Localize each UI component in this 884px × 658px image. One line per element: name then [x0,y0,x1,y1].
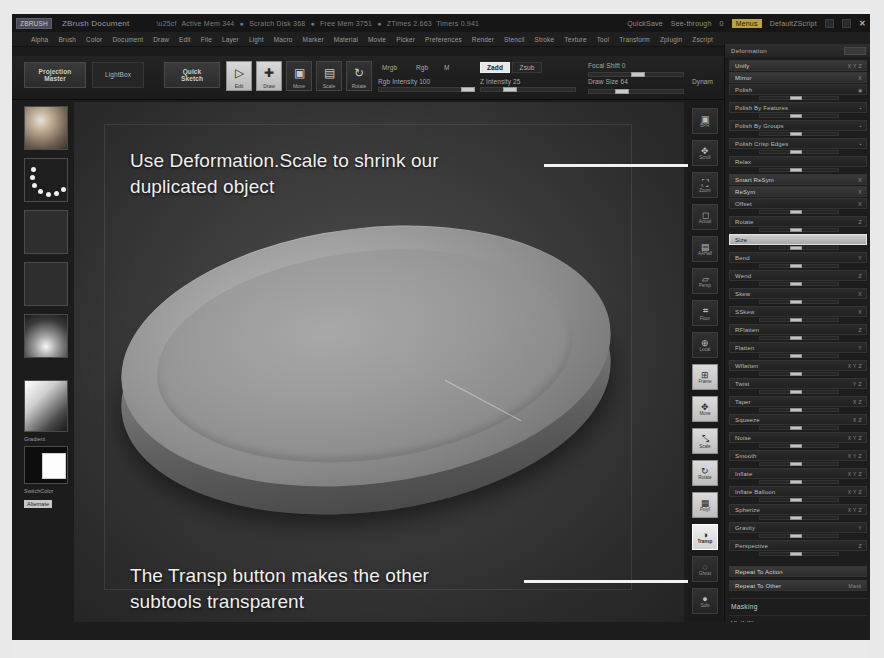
ghost-button[interactable]: ◌Ghost [692,556,718,582]
deformation-row-axis[interactable]: X Y Z [848,471,862,477]
deformation-slider-wend[interactable] [759,282,839,286]
deformation-row-sskew[interactable]: SSkewX [729,306,867,317]
slider-knob[interactable] [790,264,802,268]
deformation-slider-taper[interactable] [759,408,839,412]
lightbox-button[interactable]: LightBox [92,62,144,88]
deformation-slider-gravity[interactable] [759,534,839,538]
deformation-row-axis[interactable]: X Y Z [848,435,862,441]
current-texture-swatch[interactable] [24,262,68,306]
zadd-button[interactable]: Zadd [480,62,510,73]
deformation-row-axis[interactable]: Y [858,525,862,531]
deformation-slider-skew[interactable] [759,300,839,304]
deformation-row-polish[interactable]: Polish◉ [729,84,867,95]
menu-item-preferences[interactable]: Preferences [420,36,467,43]
persp-button[interactable]: ▱Persp [692,268,718,294]
mrgb-button[interactable]: Mrgb [382,64,397,71]
current-alpha-swatch[interactable] [24,210,68,254]
dynamic-button[interactable]: Dynam [692,78,713,85]
menu-item-tool[interactable]: Tool [592,36,615,43]
deformation-slider-spherize[interactable] [759,516,839,520]
deformation-row-axis[interactable]: ◉ [858,87,862,93]
move-mode-button[interactable]: ▣ Move [286,61,312,91]
menu-item-stencil[interactable]: Stencil [499,36,530,43]
deformation-row-twist[interactable]: TwistY Z [729,378,867,389]
deformation-row-axis[interactable]: X [858,291,862,297]
alternate-label[interactable]: Alternate [24,500,52,508]
deformation-row-axis[interactable]: X Y Z [848,489,862,495]
deformation-row-axis[interactable]: ▪ [860,105,862,111]
m-button[interactable]: M [444,64,450,71]
deformation-row-axis[interactable]: ▪ [860,123,862,129]
repeat-to-action-button[interactable]: Repeat To Action [729,566,867,577]
zoom-button[interactable]: ⛶Zoom [692,172,718,198]
bpr-button[interactable]: ▣BPR [692,108,718,134]
deformation-row-wflatten[interactable]: WflattenX Y Z [729,360,867,371]
maximize-button[interactable] [842,19,851,28]
deformation-row-axis[interactable]: Z [859,327,862,333]
deformation-row-axis[interactable]: Z [859,273,862,279]
deformation-row-axis[interactable]: Y Z [853,381,862,387]
repeat-mask-toggle[interactable]: Mask [848,583,862,589]
deformation-slider-rotate[interactable] [759,228,839,232]
slider-knob[interactable] [790,282,802,286]
menu-item-zplugin[interactable]: Zplugin [655,36,687,43]
menu-item-render[interactable]: Render [467,36,499,43]
menu-item-draw[interactable]: Draw [148,36,174,43]
deformation-row-axis[interactable]: X Y Z [848,363,862,369]
deformation-slider-size[interactable] [759,246,839,250]
3d-model-disc[interactable] [110,212,630,542]
slider-knob[interactable] [790,408,802,412]
menu-item-material[interactable]: Material [329,36,363,43]
deformation-row-spherize[interactable]: SpherizeX Y Z [729,504,867,515]
deformation-row-smart-resym[interactable]: Smart ReSymX [729,174,867,185]
slider-knob[interactable] [790,462,802,466]
menu-item-document[interactable]: Document [107,36,148,43]
projection-master-button[interactable]: Projection Master [24,62,86,88]
deformation-row-unify[interactable]: UnifyX Y Z [729,60,867,71]
slider-knob[interactable] [790,168,802,172]
slider-knob[interactable] [790,114,802,118]
deformation-row-wend[interactable]: WendZ [729,270,867,281]
color-gradient-picker[interactable] [24,380,68,432]
slider-knob[interactable] [790,534,802,538]
deformation-row-axis[interactable]: X [858,201,862,207]
see-through-value[interactable]: 0 [720,20,724,27]
rgb-intensity-label[interactable]: Rgb Intensity 100 [378,78,430,85]
viewport-canvas[interactable]: Use Deformation.Scale to shrink our dupl… [74,102,684,622]
quicksave-button[interactable]: QuickSave [627,20,663,27]
minimize-button[interactable] [825,19,834,28]
slider-knob[interactable] [790,372,802,376]
deformation-slider-smooth[interactable] [759,462,839,466]
rotate-mode-button[interactable]: ↻ Rotate [346,61,372,91]
deformation-slider-relax[interactable] [759,168,839,172]
slider-knob[interactable] [790,150,802,154]
deformation-row-bend[interactable]: BendY [729,252,867,263]
current-material-swatch[interactable] [24,314,68,358]
frame-button[interactable]: ⊞Frame [692,364,718,390]
slider-knob[interactable] [790,300,802,304]
deformation-row-smooth[interactable]: SmoothX Y Z [729,450,867,461]
deformation-slider-offset[interactable] [759,210,839,214]
deformation-row-axis[interactable]: X Y Z [848,453,862,459]
deformation-slider-polish-crisp-edges[interactable] [759,150,839,154]
floor-button[interactable]: ⌗Floor [692,300,718,326]
menu-item-edit[interactable]: Edit [174,36,196,43]
deformation-slider-inflate-balloon[interactable] [759,498,839,502]
actual-button[interactable]: ◻Actual [692,204,718,230]
draw-size-label[interactable]: Draw Size 64 [588,78,628,85]
deformation-row-noise[interactable]: NoiseX Y Z [729,432,867,443]
menu-item-macro[interactable]: Macro [269,36,298,43]
local-button[interactable]: ⊕Local [692,332,718,358]
slider-knob[interactable] [790,96,802,100]
slider-knob[interactable] [790,498,802,502]
menu-item-color[interactable]: Color [81,36,107,43]
deformation-row-inflate[interactable]: InflateX Y Z [729,468,867,479]
current-stroke-swatch[interactable] [24,158,68,202]
scale-mode-button[interactable]: ▤ Scale [316,61,342,91]
current-brush-swatch[interactable] [24,106,68,150]
deformation-row-axis[interactable]: Z [859,543,862,549]
deformation-row-inflate-balloon[interactable]: Inflate BalloonX Y Z [729,486,867,497]
deformation-row-axis[interactable]: ▪ [860,141,862,147]
rgb-intensity-slider[interactable] [378,87,474,92]
scroll-button[interactable]: ✥Scroll [692,140,718,166]
